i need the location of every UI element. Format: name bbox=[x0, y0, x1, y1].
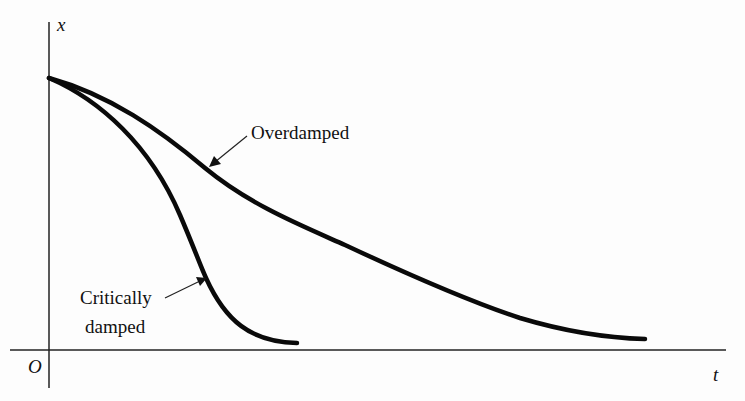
x-axis-label: t bbox=[713, 364, 718, 386]
critically-damped-label-line2: damped bbox=[85, 314, 145, 340]
plot-area bbox=[0, 0, 745, 401]
damping-figure: x O t Overdamped Critically damped bbox=[0, 0, 745, 401]
critically-damped-label-line1: Critically bbox=[80, 285, 152, 311]
origin-label: O bbox=[28, 356, 42, 378]
y-axis-label: x bbox=[57, 14, 65, 36]
critically-damped-arrow bbox=[165, 277, 207, 298]
overdamped-arrow bbox=[209, 136, 247, 167]
overdamped-label: Overdamped bbox=[251, 120, 349, 146]
